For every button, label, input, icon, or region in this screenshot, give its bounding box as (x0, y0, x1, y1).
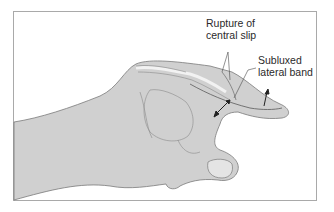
label-subluxed-lateral-band: Subluxed lateral band (258, 54, 313, 78)
hand-illustration (0, 0, 334, 212)
label-line: Subluxed (258, 54, 313, 66)
hand-shape (14, 61, 289, 200)
label-line: Rupture of (206, 17, 256, 29)
label-line: central slip (206, 29, 256, 41)
label-rupture-central-slip: Rupture of central slip (206, 17, 256, 41)
label-line: lateral band (258, 66, 313, 78)
